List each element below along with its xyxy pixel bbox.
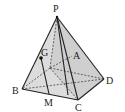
label-c: C: [75, 102, 82, 112]
pyramid-figure: P A B C D G M: [0, 0, 125, 112]
label-b: B: [12, 85, 19, 96]
point-p: [56, 16, 58, 18]
label-g: G: [41, 47, 48, 58]
label-m: M: [44, 97, 53, 108]
pyramid-diagram: P A B C D G M: [0, 0, 125, 112]
label-d: D: [106, 75, 113, 86]
label-a: A: [73, 50, 81, 61]
label-p: P: [53, 3, 59, 14]
